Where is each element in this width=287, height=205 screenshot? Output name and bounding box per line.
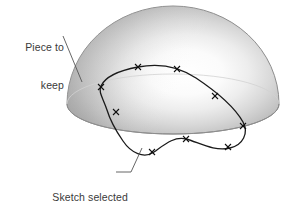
label-piece-to-keep-line1: Piece to — [6, 41, 64, 54]
label-piece-to-keep: Piece to keep — [6, 16, 64, 116]
label-sketch-trim-tool-line1: Sketch selected — [18, 191, 128, 204]
technical-illustration: Piece to keep Sketch selected as trim to… — [0, 0, 287, 205]
label-sketch-trim-tool: Sketch selected as trim tool — [18, 166, 128, 205]
sketch-point-marker[interactable] — [225, 144, 231, 150]
label-piece-to-keep-line2: keep — [6, 79, 64, 92]
